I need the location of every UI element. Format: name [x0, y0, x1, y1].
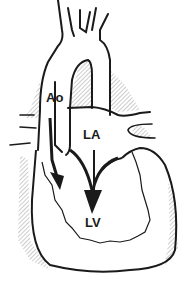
flow-arrow-la-to-lv	[70, 150, 118, 214]
label-aorta: Ao	[46, 90, 63, 105]
hatched-shading	[18, 61, 178, 270]
label-left-atrium: LA	[83, 127, 100, 142]
label-left-ventricle: LV	[85, 215, 101, 230]
heart-diagram	[0, 0, 190, 292]
flow-arrow-ao-to-lv	[50, 118, 64, 190]
